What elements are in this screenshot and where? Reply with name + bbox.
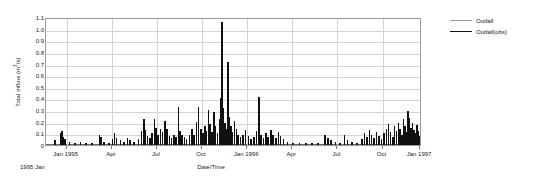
data-spike xyxy=(245,130,247,145)
data-spike xyxy=(420,132,421,145)
data-spike xyxy=(253,137,255,145)
x-tick-mark xyxy=(291,146,292,149)
data-spike xyxy=(305,143,307,145)
vertical-gridline xyxy=(247,19,248,145)
horizontal-gridline xyxy=(46,66,420,67)
x-tick-mark xyxy=(336,146,337,149)
data-spike xyxy=(129,140,131,145)
data-spike xyxy=(103,142,105,145)
data-spike xyxy=(138,139,140,145)
data-spike xyxy=(361,139,363,145)
y-tick-label: 1.1 xyxy=(22,15,44,21)
data-spike xyxy=(248,136,250,145)
y-tick-label: 0.9 xyxy=(22,38,44,44)
y-tick-label: 0 xyxy=(22,143,44,149)
data-spike xyxy=(335,142,337,145)
data-spike xyxy=(120,140,122,145)
data-spike xyxy=(344,135,346,145)
data-spike xyxy=(283,139,285,145)
x-tick-label: Jul xyxy=(152,150,160,158)
y-tick-label: 0.6 xyxy=(22,73,44,79)
x-tick-label: Jan 1997 xyxy=(407,150,432,158)
data-spike xyxy=(324,135,326,145)
data-spike xyxy=(74,143,76,145)
x-tick-label: Jul xyxy=(333,150,341,158)
x-tick-label: Oct xyxy=(377,150,386,158)
x-tick-mark xyxy=(156,146,157,149)
data-spike xyxy=(240,137,242,145)
y-axis-title-base: Total inflow (m xyxy=(15,67,21,107)
vertical-gridline xyxy=(420,19,421,145)
y-axis-title: Total inflow (m3/s) xyxy=(10,18,22,146)
data-spike xyxy=(330,140,332,145)
legend-line-icon xyxy=(450,20,472,21)
y-tick-label: 0.1 xyxy=(22,131,44,137)
data-spike xyxy=(311,143,313,145)
data-spike xyxy=(292,143,294,145)
x-tick-mark xyxy=(201,146,202,149)
y-axis-title-tail: /s) xyxy=(15,57,21,64)
data-spike xyxy=(327,138,329,145)
horizontal-gridline xyxy=(46,100,420,101)
horizontal-gridline xyxy=(46,112,420,113)
horizontal-gridline xyxy=(46,31,420,32)
horizontal-gridline xyxy=(46,77,420,78)
x-axis-title: Date/Time xyxy=(0,163,536,171)
x-tick-mark xyxy=(419,146,420,149)
chart-legend: OutfallOutfall(obs) xyxy=(450,16,534,38)
x-tick-mark xyxy=(246,146,247,149)
y-tick-label: 0.2 xyxy=(22,120,44,126)
legend-item[interactable]: Outfall xyxy=(450,16,534,25)
y-axis-ticks: 1.11.00.90.80.70.60.50.40.30.20.10 xyxy=(22,18,44,146)
data-spike xyxy=(242,135,244,145)
x-axis-ticks: Jan 1995AprJulOctJan 1996AprJulOctJan 19… xyxy=(45,146,421,162)
data-spike xyxy=(364,133,366,145)
legend-item[interactable]: Outfall(obs) xyxy=(450,27,534,36)
vertical-gridline xyxy=(157,19,158,145)
data-spike xyxy=(373,138,375,145)
y-tick-label: 0.3 xyxy=(22,108,44,114)
data-spike xyxy=(381,139,383,145)
vertical-gridline xyxy=(202,19,203,145)
data-spike xyxy=(250,139,252,145)
data-spike xyxy=(91,143,93,145)
data-spike xyxy=(267,137,269,145)
y-tick-label: 1.0 xyxy=(22,27,44,33)
data-spike xyxy=(100,137,102,145)
data-spike xyxy=(317,143,319,145)
data-spike xyxy=(376,132,378,145)
x-tick-label: Oct xyxy=(196,150,205,158)
y-tick-label: 0.4 xyxy=(22,96,44,102)
data-spike xyxy=(123,142,125,145)
horizontal-gridline xyxy=(46,42,420,43)
vertical-gridline xyxy=(383,19,384,145)
data-spike xyxy=(133,142,135,145)
data-spike xyxy=(275,138,277,145)
x-tick-mark xyxy=(382,146,383,149)
y-tick-label: 0.8 xyxy=(22,50,44,56)
data-spike xyxy=(116,138,118,145)
vertical-gridline xyxy=(112,19,113,145)
vertical-gridline xyxy=(337,19,338,145)
horizontal-gridline xyxy=(46,89,420,90)
data-spike xyxy=(280,136,282,145)
x-tick-label: Jan 1996 xyxy=(234,150,259,158)
data-spike xyxy=(127,138,129,145)
data-spike xyxy=(64,139,66,145)
chart-container: Total inflow (m3/s) 1.11.00.90.80.70.60.… xyxy=(0,0,536,188)
data-spike xyxy=(287,142,289,145)
horizontal-gridline xyxy=(46,54,420,55)
data-spike xyxy=(69,142,71,145)
data-spike xyxy=(108,143,110,145)
x-tick-label: Jan 1995 xyxy=(53,150,78,158)
data-spike xyxy=(339,143,341,145)
x-tick-label: Apr xyxy=(287,150,296,158)
data-spike xyxy=(54,140,56,145)
data-spike xyxy=(80,142,82,145)
legend-line-icon xyxy=(450,31,472,32)
legend-label: Outfall(obs) xyxy=(476,28,507,36)
data-spike xyxy=(186,139,188,145)
x-tick-mark xyxy=(111,146,112,149)
data-spike xyxy=(351,142,353,145)
vertical-gridline xyxy=(292,19,293,145)
